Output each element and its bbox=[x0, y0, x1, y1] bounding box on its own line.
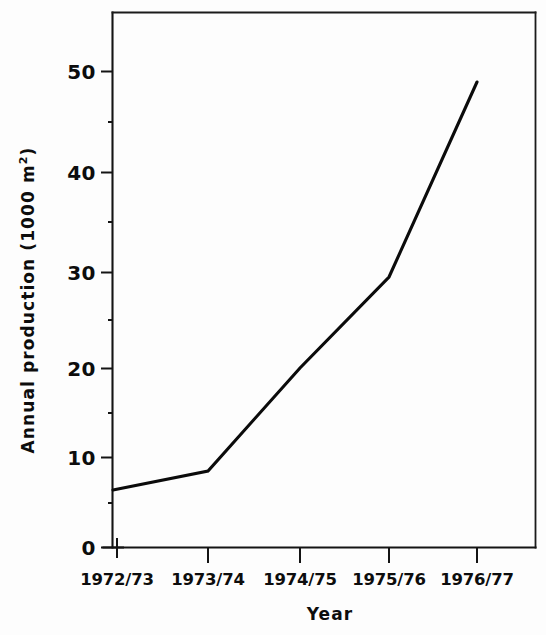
y-axis-title-close: ) bbox=[18, 147, 38, 156]
x-tick-label-1973-74: 1973/74 bbox=[171, 570, 245, 589]
y-axis-title: Annual production (1000 m2) bbox=[17, 147, 38, 454]
x-axis-ticks bbox=[117, 538, 477, 563]
x-axis-title: Year bbox=[306, 604, 354, 624]
chart-figure: 0 10 20 30 40 50 1972/73 1973/74 1974/75… bbox=[0, 0, 546, 635]
x-tick-label-1972-73: 1972/73 bbox=[80, 570, 154, 589]
x-tick-label-1976-77: 1976/77 bbox=[440, 570, 514, 589]
y-tick-label-30: 30 bbox=[67, 261, 96, 285]
y-tick-label-20: 20 bbox=[67, 357, 96, 381]
y-axis-title-superscript: 2 bbox=[17, 155, 30, 164]
y-tick-labels: 0 10 20 30 40 50 bbox=[67, 60, 96, 560]
y-tick-label-0: 0 bbox=[82, 536, 96, 560]
x-tick-labels: 1972/73 1973/74 1974/75 1975/76 1976/77 bbox=[80, 570, 514, 589]
x-tick-label-1974-75: 1974/75 bbox=[263, 570, 337, 589]
y-tick-label-50: 50 bbox=[67, 60, 96, 84]
x-tick-label-1975-76: 1975/76 bbox=[352, 570, 426, 589]
y-axis-title-group: Annual production (1000 m2) bbox=[17, 147, 38, 454]
y-tick-label-10: 10 bbox=[67, 446, 96, 470]
y-axis-title-main: Annual production (1000 m bbox=[18, 164, 38, 453]
line-chart-plot: 0 10 20 30 40 50 1972/73 1973/74 1974/75… bbox=[0, 0, 546, 635]
y-tick-label-40: 40 bbox=[67, 161, 96, 185]
production-data-line bbox=[113, 82, 477, 490]
